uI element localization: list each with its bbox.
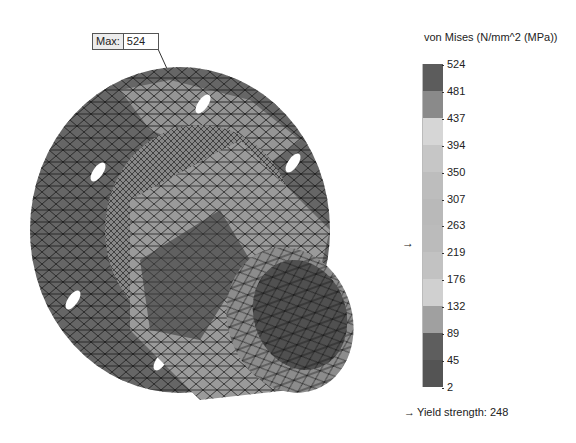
color-segment bbox=[423, 225, 443, 252]
tick-label: 263 bbox=[447, 219, 465, 231]
yield-marker-arrow-icon: → bbox=[402, 236, 414, 250]
color-segment bbox=[423, 360, 443, 387]
tick-label: 132 bbox=[447, 300, 465, 312]
tick-label: 350 bbox=[447, 166, 465, 178]
yield-strength-label: → Yield strength: 248 bbox=[404, 406, 508, 418]
color-segment bbox=[423, 252, 443, 279]
max-annotation: Max: 524 bbox=[92, 33, 159, 50]
arrow-right-icon: → bbox=[404, 406, 415, 418]
tick-label: 524 bbox=[447, 58, 465, 70]
color-segment bbox=[423, 199, 443, 226]
color-segment bbox=[423, 91, 443, 118]
color-segment bbox=[423, 145, 443, 172]
max-label: Max: bbox=[93, 34, 124, 49]
tick-label: 394 bbox=[447, 139, 465, 151]
max-value: 524 bbox=[124, 34, 158, 49]
tick-label: 45 bbox=[447, 354, 459, 366]
color-segment bbox=[423, 333, 443, 360]
legend-title: von Mises (N/mm^2 (MPa)) bbox=[424, 31, 558, 43]
color-segment bbox=[423, 118, 443, 145]
color-segment bbox=[423, 64, 443, 91]
tick-label: 176 bbox=[447, 273, 465, 285]
fea-stress-model bbox=[0, 0, 400, 443]
color-segment bbox=[423, 279, 443, 306]
tick-label: 307 bbox=[447, 193, 465, 205]
color-segment bbox=[423, 172, 443, 199]
yield-strength-text: Yield strength: 248 bbox=[417, 406, 508, 418]
tick-label: 437 bbox=[447, 112, 465, 124]
color-scale-bar bbox=[422, 64, 443, 387]
tick-label: 219 bbox=[447, 246, 465, 258]
tick-label: 89 bbox=[447, 327, 459, 339]
color-segment bbox=[423, 306, 443, 333]
tick-label: 481 bbox=[447, 85, 465, 97]
tick-label: 2 bbox=[447, 381, 453, 393]
